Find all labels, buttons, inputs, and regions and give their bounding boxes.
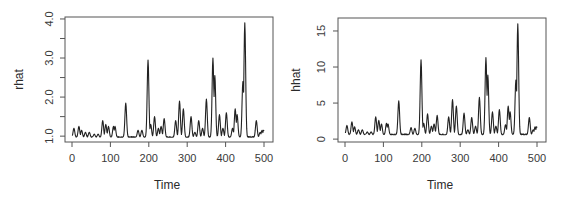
x-tick-label: 500 [528, 152, 546, 164]
x-tick-label: 0 [69, 152, 75, 164]
hhat-chart: 0510150100200300400500Timehhat [281, 0, 562, 200]
x-tick-label: 200 [413, 152, 431, 164]
y-tick-label: 4.0 [43, 11, 55, 26]
x-tick-label: 200 [140, 152, 158, 164]
x-axis-title: Time [427, 178, 454, 192]
rhat-series-line [72, 23, 264, 137]
y-tick-label: 5 [315, 100, 327, 106]
x-tick-label: 100 [374, 152, 392, 164]
x-tick-label: 400 [216, 152, 234, 164]
rhat-chart-panel: 1.02.03.04.00100200300400500Timerhat [0, 0, 281, 200]
rhat-chart: 1.02.03.04.00100200300400500Timerhat [0, 0, 281, 200]
y-axis-title: rhat [12, 69, 26, 90]
y-tick-label: 15 [315, 25, 327, 37]
x-tick-label: 300 [451, 152, 469, 164]
y-tick-label: 0 [315, 136, 327, 142]
x-tick-label: 0 [342, 152, 348, 164]
y-tick-label: 3.0 [43, 50, 55, 65]
y-axis-title: hhat [289, 68, 303, 92]
hhat-chart-panel: 0510150100200300400500Timehhat [281, 0, 562, 200]
x-tick-label: 300 [178, 152, 196, 164]
x-tick-label: 500 [255, 152, 273, 164]
y-tick-label: 1.0 [43, 128, 55, 143]
x-axis-title: Time [154, 178, 181, 192]
x-tick-label: 400 [489, 152, 507, 164]
x-tick-label: 100 [101, 152, 119, 164]
y-tick-label: 10 [315, 61, 327, 73]
y-tick-label: 2.0 [43, 89, 55, 104]
hhat-series-line [345, 24, 537, 135]
